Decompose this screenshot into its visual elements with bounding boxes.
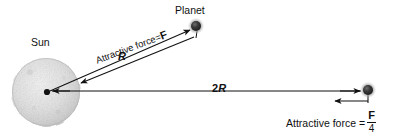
sun-center-marker bbox=[44, 89, 50, 95]
force-f-over-4-text: Attractive force = bbox=[286, 118, 365, 129]
force-f-over-4-label: Attractive force =F4 bbox=[286, 111, 376, 135]
planet-near-body bbox=[188, 18, 204, 34]
distance-2r-symbol: R bbox=[218, 82, 226, 94]
fraction-f-over-4: F4 bbox=[367, 110, 376, 134]
sun-label: Sun bbox=[31, 37, 50, 48]
distance-2r-label: 2R bbox=[212, 83, 226, 94]
fraction-denominator: 4 bbox=[369, 124, 375, 135]
planet-label: Planet bbox=[175, 5, 205, 16]
fraction-numerator: F bbox=[368, 110, 375, 122]
planet-far-body bbox=[360, 82, 376, 98]
gravitation-diagram: Sun Planet R 2R Attractive force=F Attra… bbox=[0, 0, 394, 140]
